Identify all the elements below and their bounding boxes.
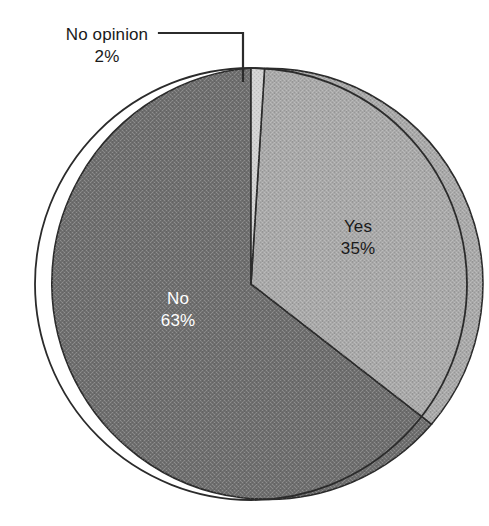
slice-label-no-opinion-value: 2% — [95, 47, 120, 66]
pie-chart-canvas: No opinion 2% Yes 35% No 63% — [0, 0, 489, 526]
slice-label-no-opinion-name: No opinion — [66, 25, 148, 44]
slice-label-no-value: 63% — [161, 311, 195, 330]
slice-label-yes-name: Yes — [344, 217, 372, 236]
pie-chart: No opinion 2% Yes 35% No 63% — [0, 0, 489, 526]
slice-label-yes-value: 35% — [341, 239, 375, 258]
slice-label-no-name: No — [167, 289, 189, 308]
